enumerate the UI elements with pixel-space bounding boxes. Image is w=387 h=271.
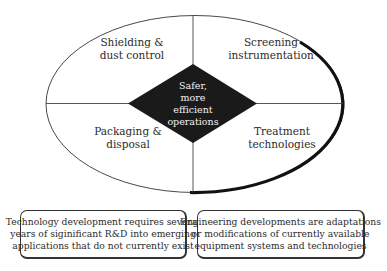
quadrant-bottom-left-label: Packaging & disposal	[80, 125, 176, 151]
technology-development-diagram: Shielding & dust control Screening instr…	[0, 0, 387, 271]
center-line-4: operations	[153, 116, 233, 128]
note-left-line-1: Technology development requires several	[6, 216, 200, 228]
center-line-1: Safer,	[153, 80, 233, 92]
note-box-technology-development: Technology development requires several …	[20, 210, 187, 259]
note-right-line-2: or modifications of currently available	[180, 228, 381, 240]
note-left-line-3: applications that do not currently exist	[6, 240, 200, 252]
quadrant-bottom-right-label: Treatment technologies	[232, 125, 332, 151]
quadrant-top-left-label: Shielding & dust control	[84, 36, 180, 62]
quadrant-top-right-line-1: Screening	[218, 36, 324, 49]
quadrant-bottom-left-line-2: disposal	[80, 138, 176, 151]
quadrant-top-right-line-2: instrumentation	[218, 49, 324, 62]
quadrant-top-left-line-2: dust control	[84, 49, 180, 62]
note-right-line-1: Engineering developments are adaptations	[180, 216, 381, 228]
center-goal-label: Safer, more efficient operations	[153, 80, 233, 128]
note-left-line-2: years of siginificant R&D into emerging	[6, 228, 200, 240]
quadrant-bottom-right-line-1: Treatment	[232, 125, 332, 138]
center-line-3: efficient	[153, 104, 233, 116]
quadrant-top-left-line-1: Shielding &	[84, 36, 180, 49]
quadrant-bottom-right-line-2: technologies	[232, 138, 332, 151]
quadrant-top-right-label: Screening instrumentation	[218, 36, 324, 62]
note-right-line-3: equipment systems and technologies	[180, 240, 381, 252]
center-line-2: more	[153, 92, 233, 104]
note-box-engineering-developments: Engineering developments are adaptations…	[197, 210, 365, 259]
